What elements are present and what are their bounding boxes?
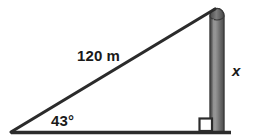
opposite-side-label: x [232,63,240,78]
vertical-pole [210,9,224,133]
hypotenuse-label: 120 m [77,48,120,63]
right-triangle-figure: 120 m 43° x [0,0,255,139]
pole-body [210,9,224,133]
right-angle-marker-icon [200,119,213,132]
angle-label: 43° [51,113,74,128]
hypotenuse-line [11,9,215,132]
triangle-diagram-canvas [0,0,255,139]
